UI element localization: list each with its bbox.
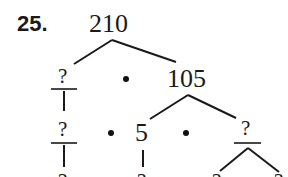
level3-unknown-4: ? [274, 171, 283, 177]
level3-unknown-2: ? [137, 171, 146, 177]
level1-multiply-dot [123, 76, 129, 82]
level2-right-unknown: ? [241, 118, 250, 139]
level3-unknown-3: ? [212, 171, 221, 177]
level2-multiply-dot-1 [108, 130, 114, 136]
level2-left-unknown: ? [58, 119, 67, 140]
level2-multiply-dot-2 [183, 130, 189, 136]
level2-middle-number: 5 [135, 120, 148, 146]
level1-left-unknown: ? [58, 66, 67, 87]
problem-number: 25. [17, 11, 48, 37]
level3-unknown-1: ? [58, 171, 67, 177]
level1-right-number: 105 [167, 66, 206, 92]
root-number: 210 [89, 11, 128, 37]
